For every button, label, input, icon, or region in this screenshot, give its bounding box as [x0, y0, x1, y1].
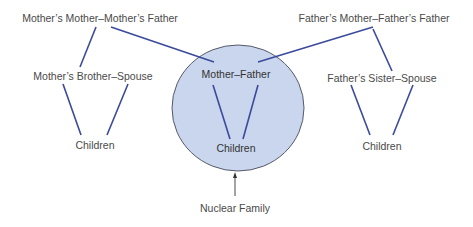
line-spouse-to-children-left [107, 84, 128, 135]
line-uncle-to-children-left [63, 84, 81, 135]
line-paternal-grandparents-to-parents [258, 27, 373, 62]
label-nuclear-family: Nuclear Family [200, 202, 270, 214]
label-maternal-uncle: Mother’s Brother–Spouse [33, 70, 152, 82]
line-maternal-grandparents-to-uncle [80, 27, 96, 67]
label-paternal-aunt: Father’s Sister–Spouse [327, 72, 436, 84]
diagram-graphics [0, 0, 473, 227]
label-children-left: Children [75, 139, 114, 151]
arrow-head-icon [233, 172, 237, 178]
label-children-right: Children [362, 140, 401, 152]
label-children-center: Children [216, 142, 255, 154]
line-paternal-grandparents-to-aunt [373, 29, 392, 71]
line-spouse-to-children-right [393, 85, 413, 135]
kinship-diagram: Mother’s Mother–Mother’s Father Father’s… [0, 0, 473, 227]
label-paternal-grandparents: Father’s Mother–Father’s Father [299, 12, 450, 24]
line-maternal-grandparents-to-parents [111, 27, 214, 62]
line-aunt-to-children-right [351, 85, 370, 135]
label-parents: Mother–Father [202, 68, 271, 80]
label-maternal-grandparents: Mother’s Mother–Mother’s Father [22, 12, 178, 24]
